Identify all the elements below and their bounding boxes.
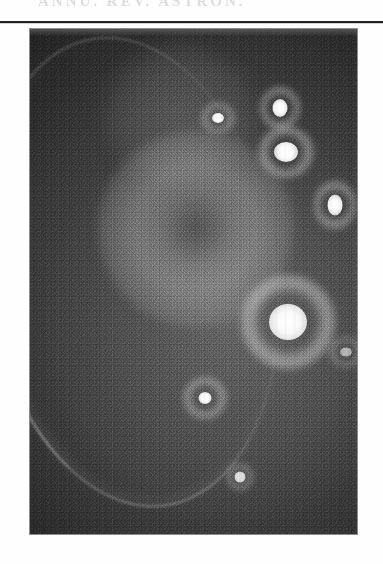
header-divider-shadow [0,23,383,24]
figure-photographic-plate [30,29,357,534]
document-page: ANNU. REV. ASTRON. [0,0,383,564]
plate-top-edge [30,29,357,36]
running-header-text: ANNU. REV. ASTRON. [38,0,246,10]
plate-vignette [30,29,357,534]
running-header: ANNU. REV. ASTRON. [0,0,383,21]
